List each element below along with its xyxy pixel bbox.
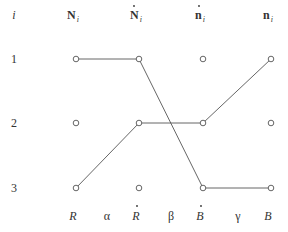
bottom-label-1: R bbox=[68, 209, 77, 223]
column-header-3: ni bbox=[195, 8, 205, 24]
row-label-3: 3 bbox=[11, 181, 17, 195]
node-c4-r1 bbox=[268, 56, 274, 62]
edges-layer bbox=[76, 59, 271, 188]
index-header: i bbox=[12, 8, 15, 22]
node-c2-r2 bbox=[136, 120, 142, 126]
edge-4 bbox=[76, 123, 139, 188]
edge-2 bbox=[139, 59, 203, 188]
node-c3-r2 bbox=[200, 120, 206, 126]
node-c4-r3 bbox=[268, 185, 274, 191]
labels-layer: i NiNinini123RαRβBγB bbox=[11, 5, 273, 223]
bottom-label-5: B bbox=[196, 209, 204, 223]
row-label-1: 1 bbox=[11, 52, 17, 66]
node-c4-r2 bbox=[268, 120, 274, 126]
node-c2-r1 bbox=[136, 56, 142, 62]
edge-6 bbox=[203, 59, 271, 123]
bottom-dot-accent bbox=[200, 205, 202, 207]
bottom-label-3: R bbox=[131, 209, 140, 223]
bottom-label-6: γ bbox=[234, 209, 241, 223]
node-c2-r3 bbox=[136, 185, 142, 191]
bottom-label-4: β bbox=[168, 209, 174, 223]
node-c1-r1 bbox=[73, 56, 79, 62]
column-header-2: Ni bbox=[130, 8, 142, 24]
bottom-dot-accent bbox=[136, 205, 138, 207]
row-label-2: 2 bbox=[11, 116, 17, 130]
nodes-layer bbox=[73, 56, 274, 191]
bottom-label-7: B bbox=[264, 209, 272, 223]
header-dot-accent bbox=[198, 5, 200, 7]
node-c3-r3 bbox=[200, 185, 206, 191]
node-c1-r3 bbox=[73, 185, 79, 191]
column-header-4: ni bbox=[263, 8, 273, 24]
bottom-label-2: α bbox=[104, 209, 111, 223]
column-header-1: Ni bbox=[67, 8, 79, 24]
permutation-diagram: i NiNinini123RαRβBγB bbox=[0, 0, 288, 232]
node-c3-r1 bbox=[200, 56, 206, 62]
node-c1-r2 bbox=[73, 120, 79, 126]
header-dot-accent bbox=[133, 5, 135, 7]
